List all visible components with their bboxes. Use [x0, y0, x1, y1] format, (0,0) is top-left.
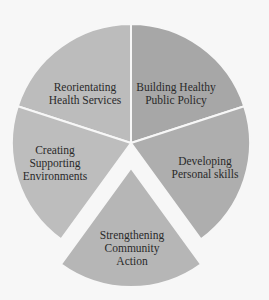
segment-label-line: Building Healthy [136, 81, 216, 94]
segment-label-strengthening: StrengtheningCommunityAction [100, 229, 165, 268]
segment-label-line: Strengthening [100, 229, 165, 242]
segment-label-reorientating: ReorientatingHealth Services [49, 81, 122, 107]
segment-label-line: Public Policy [136, 94, 216, 107]
segment-label-developing: DevelopingPersonal skills [172, 155, 239, 181]
segment-label-line: Developing [172, 155, 239, 168]
segment-label-line: Personal skills [172, 168, 239, 181]
segment-label-line: Reorientating [49, 81, 122, 94]
segment-label-line: Action [100, 255, 165, 268]
segment-label-line: Environments [23, 170, 88, 183]
segment-label-line: Community [100, 242, 165, 255]
segment-label-line: Health Services [49, 94, 122, 107]
segment-label-line: Creating [23, 144, 88, 157]
segment-label-line: Supporting [23, 157, 88, 170]
segment-label-building: Building HealthyPublic Policy [136, 81, 216, 107]
segment-label-creating: CreatingSupportingEnvironments [23, 144, 88, 183]
